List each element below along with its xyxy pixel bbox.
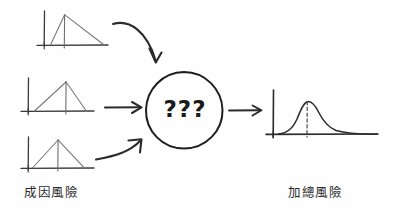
causal-risk-label: 成因風險 [24, 182, 78, 201]
input-3-rising-edge [33, 140, 59, 168]
output-curve [279, 101, 377, 134]
output-distribution [266, 90, 378, 138]
arrow-input-3-shaft [96, 141, 141, 160]
input-2-falling-edge [66, 82, 87, 111]
arrow-input-2 [105, 102, 142, 113]
input-distribution-3 [21, 137, 94, 172]
center-node-label: ??? [160, 96, 210, 122]
arrow-output [229, 106, 262, 116]
arrow-input-3 [96, 139, 142, 159]
diagram-canvas: ??? 成因風險 加總風險 [0, 0, 397, 213]
arrow-input-1-head [150, 49, 162, 63]
input-distribution-1 [37, 11, 108, 49]
input-1-falling-edge [65, 15, 105, 46]
arrow-input-1 [113, 23, 162, 63]
aggregate-risk-label: 加總風險 [288, 182, 342, 201]
input-2-rising-edge [35, 82, 67, 111]
arrow-input-1-shaft [113, 23, 156, 60]
input-3-falling-edge [58, 140, 85, 168]
input-1-rising-edge [51, 15, 65, 45]
input-distribution-2 [21, 78, 94, 115]
